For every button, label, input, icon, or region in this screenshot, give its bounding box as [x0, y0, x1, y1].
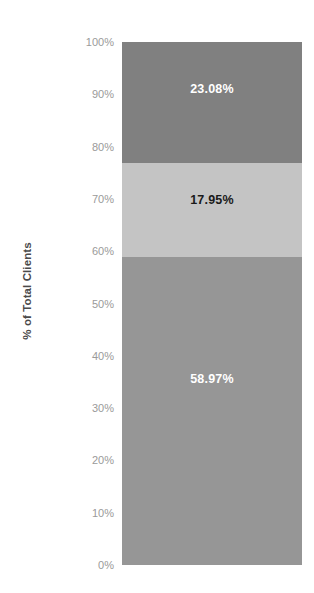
bar-segment-value-label: 17.95%	[122, 193, 302, 207]
bar-segment: 58.97%	[122, 257, 302, 565]
y-tick-label: 90%	[44, 88, 114, 100]
y-tick-label: 40%	[44, 350, 114, 362]
bar-segment: 17.95%	[122, 163, 302, 257]
y-axis-title-container: % of Total Clients	[0, 0, 42, 593]
plot-area: 58.97%17.95%23.08%	[122, 42, 302, 565]
bar-segment-value-label: 23.08%	[122, 82, 302, 96]
y-tick-label: 0%	[44, 559, 114, 571]
y-axis-tick-labels: 100%90%80%70%60%50%40%30%20%10%0%	[44, 0, 114, 593]
y-axis-title: % of Total Clients	[21, 216, 33, 366]
bar-segment: 23.08%	[122, 42, 302, 163]
y-tick-label: 100%	[44, 36, 114, 48]
stacked-bar-chart: % of Total Clients 100%90%80%70%60%50%40…	[0, 0, 314, 593]
bar-segment-value-label: 58.97%	[122, 372, 302, 386]
y-tick-label: 20%	[44, 454, 114, 466]
bar-stack: 58.97%17.95%23.08%	[122, 42, 302, 565]
y-tick-label: 70%	[44, 193, 114, 205]
y-tick-label: 60%	[44, 245, 114, 257]
y-tick-label: 50%	[44, 298, 114, 310]
y-tick-label: 10%	[44, 507, 114, 519]
y-tick-label: 30%	[44, 402, 114, 414]
y-tick-label: 80%	[44, 141, 114, 153]
